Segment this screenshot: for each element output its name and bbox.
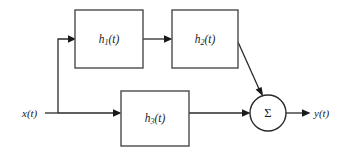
arrowhead-into-sum-left <box>242 109 251 117</box>
arrowhead-into-sum-top <box>256 87 264 96</box>
summing-junction[interactable]: Σ <box>250 95 286 131</box>
block-diagram-canvas: h1(t) h2(t) h3(t) Σ x(t) y(t) <box>0 0 344 160</box>
block-h2[interactable]: h2(t) <box>172 10 238 68</box>
block-h3[interactable]: h3(t) <box>121 91 189 146</box>
block-diagram-svg: h1(t) h2(t) h3(t) Σ x(t) y(t) <box>0 0 344 160</box>
input-label: x(t) <box>21 107 38 120</box>
wire-branch-to-h1 <box>58 39 68 113</box>
arrowhead-into-h2 <box>164 35 173 43</box>
block-h2-suffix: (t) <box>204 33 215 46</box>
block-h3-suffix: (t) <box>154 112 165 125</box>
arrowhead-into-output <box>302 109 311 117</box>
block-h1[interactable]: h1(t) <box>75 10 143 68</box>
wire-h2-to-sum <box>238 42 260 90</box>
output-label: y(t) <box>313 107 330 120</box>
arrowhead-into-h3 <box>113 109 122 117</box>
block-h1-suffix: (t) <box>108 33 119 46</box>
sigma-symbol: Σ <box>264 106 271 120</box>
